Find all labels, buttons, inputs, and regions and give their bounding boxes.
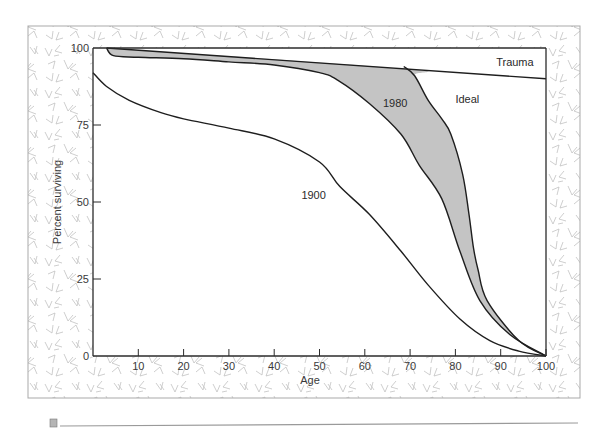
y-tick-label: 25 <box>77 273 89 285</box>
y-tick-label: 50 <box>77 196 89 208</box>
x-tick-label: 50 <box>313 360 325 372</box>
x-tick-label: 40 <box>268 360 280 372</box>
x-tick-label: 20 <box>177 360 189 372</box>
x-tick-label: 80 <box>449 360 461 372</box>
survival-curve-chart: 1020304050607080901000255075100 Age Perc… <box>0 0 603 429</box>
x-tick-label: 90 <box>495 360 507 372</box>
curve-label-trauma: Trauma <box>496 56 534 68</box>
footer-rule <box>60 423 578 426</box>
x-tick-label: 70 <box>404 360 416 372</box>
footer-square-icon <box>50 419 57 427</box>
y-axis-label: Percent surviving <box>51 160 63 244</box>
x-tick-label: 30 <box>223 360 235 372</box>
x-tick-label: 100 <box>537 360 555 372</box>
y-tick-label: 0 <box>83 350 89 362</box>
curve-label-1900: 1900 <box>301 189 325 201</box>
curve-label-1980: 1980 <box>383 97 407 109</box>
x-tick-label: 10 <box>132 360 144 372</box>
y-tick-label: 75 <box>77 119 89 131</box>
x-tick-label: 60 <box>359 360 371 372</box>
y-tick-label: 100 <box>71 42 89 54</box>
curve-label-ideal: Ideal <box>455 93 479 105</box>
x-axis-label: Age <box>300 374 320 386</box>
